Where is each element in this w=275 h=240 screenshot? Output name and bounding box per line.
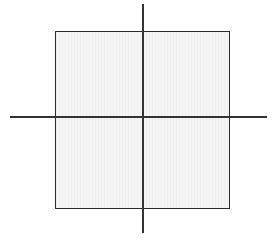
caption-sliver: [0, 233, 275, 240]
horizontal-axis-line: [10, 116, 267, 118]
vertical-axis-line: [142, 4, 144, 233]
figure-canvas: [0, 0, 275, 240]
